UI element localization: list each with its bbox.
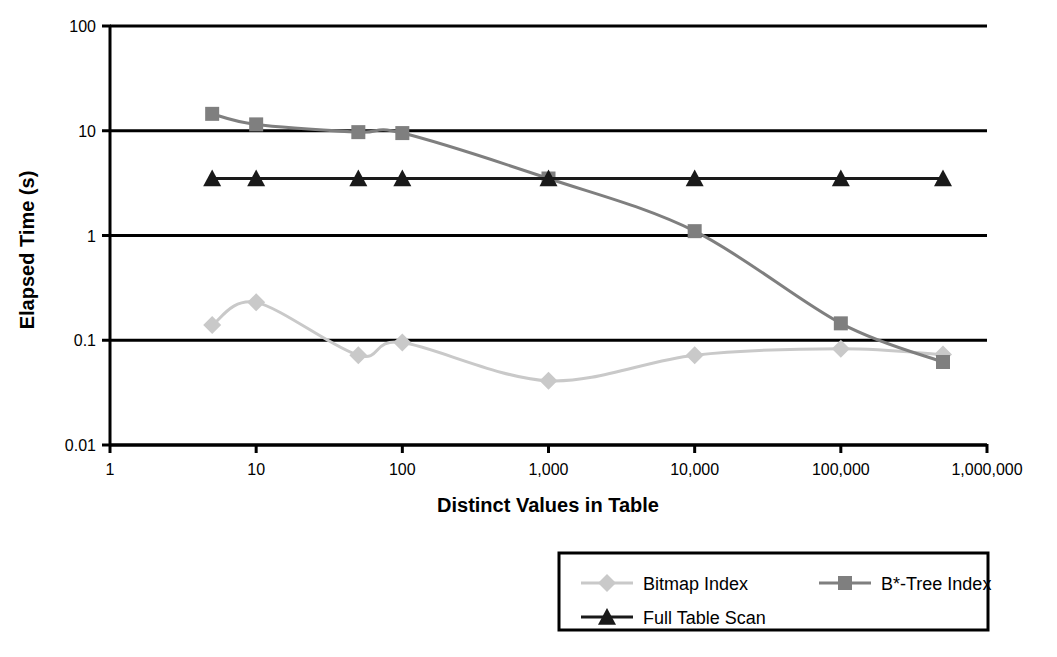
data-point-marker [688, 224, 702, 238]
y-axis-title: Elapsed Time (s) [16, 171, 38, 330]
chart-legend: Bitmap IndexB*-Tree IndexFull Table Scan [559, 553, 991, 630]
x-tick-label: 1 [106, 461, 115, 478]
legend-item-label: Full Table Scan [643, 608, 766, 628]
x-tick-label: 10,000 [670, 461, 719, 478]
legend-item-label: Bitmap Index [643, 574, 748, 594]
data-point-marker [395, 126, 409, 140]
data-point-marker [249, 117, 263, 131]
x-tick-label: 100,000 [812, 461, 870, 478]
data-point-marker [834, 316, 848, 330]
legend-item[interactable]: Bitmap Index [581, 574, 748, 594]
data-point-marker [205, 107, 219, 121]
y-tick-label: 0.01 [65, 437, 96, 454]
data-point-marker [936, 355, 950, 369]
x-tick-label: 100 [389, 461, 416, 478]
log-log-line-chart: 1001010.10.01 1101001,00010,000100,0001,… [0, 0, 1057, 657]
y-tick-label: 10 [78, 123, 96, 140]
legend-swatch-marker [838, 576, 852, 590]
y-tick-label: 100 [69, 18, 96, 35]
legend-item-label: B*-Tree Index [881, 574, 991, 594]
x-axis-title: Distinct Values in Table [437, 494, 659, 516]
chart-figure: 1001010.10.01 1101001,00010,000100,0001,… [0, 0, 1057, 657]
y-tick-label: 0.1 [74, 332, 96, 349]
x-tick-label: 1,000 [528, 461, 568, 478]
y-tick-label: 1 [87, 228, 96, 245]
x-tick-label: 1,000,000 [951, 461, 1022, 478]
x-tick-label: 10 [247, 461, 265, 478]
data-point-marker [351, 125, 365, 139]
